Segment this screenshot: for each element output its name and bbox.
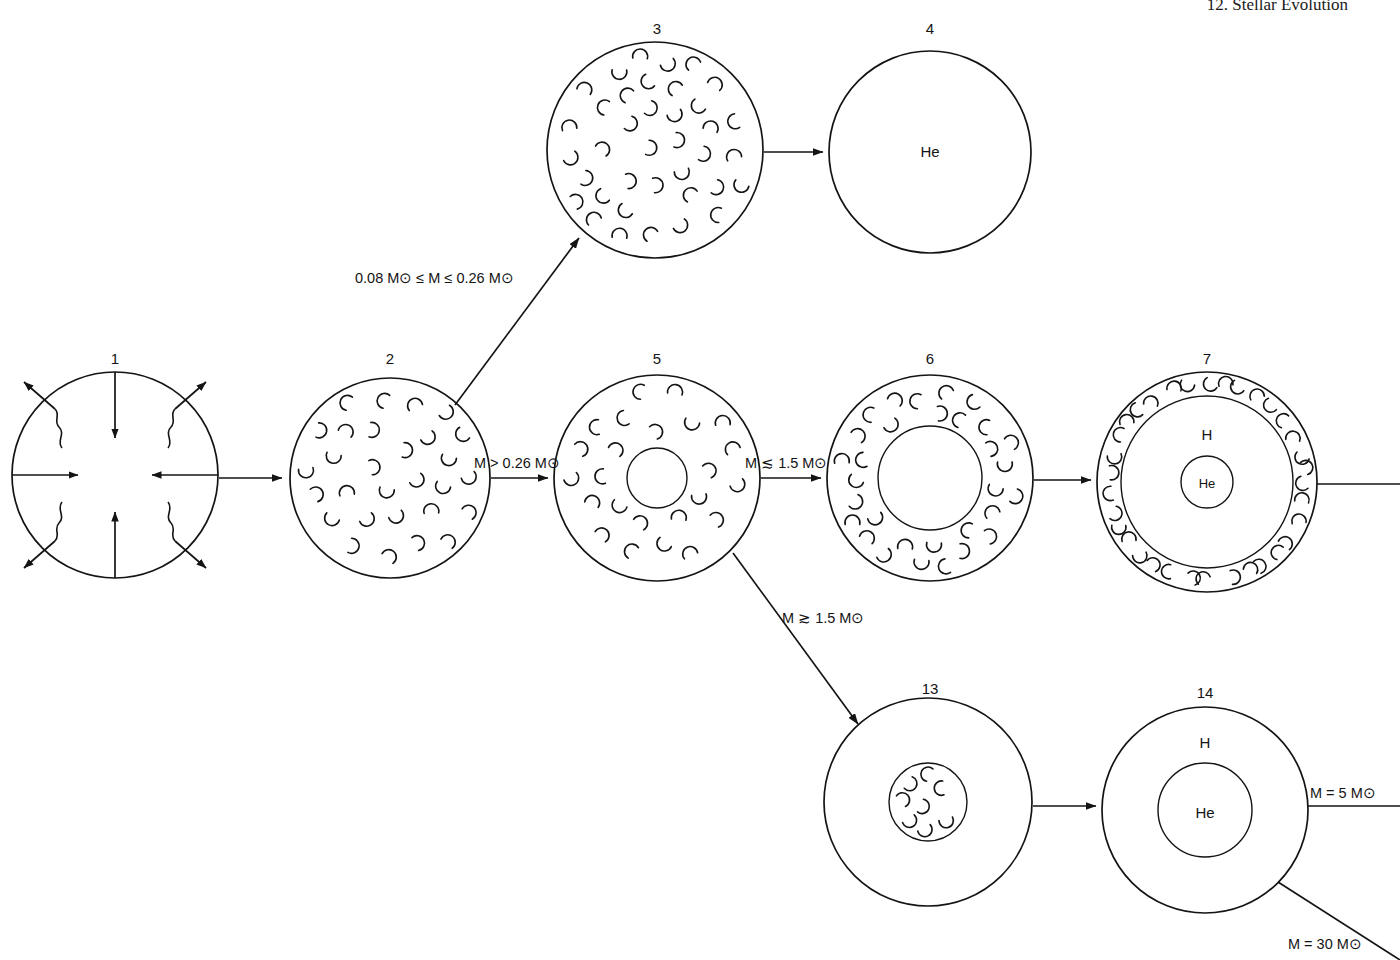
convection-mark [589,420,599,435]
stage-7-number: 7 [1203,350,1211,367]
convection-mark [918,825,932,837]
convection-mark [612,70,627,80]
convection-mark [708,77,723,90]
convection-mark [1286,431,1300,441]
convection-mark [1110,506,1122,520]
convection-mark [1253,559,1265,573]
convection-mark [988,484,1003,496]
convection-mark [979,420,990,435]
convection-mark [845,515,860,524]
stage-5-convection-marks [564,384,745,559]
stage-2-convection-marks [298,393,476,563]
convection-mark [624,544,638,558]
convection-mark [1296,476,1308,490]
convection-mark [703,463,716,477]
convection-mark [624,116,637,131]
convection-mark [856,452,867,467]
stage-6-number: 6 [926,350,934,367]
convection-mark [984,529,996,544]
stage-3-group: 3 [547,20,763,258]
convection-mark [986,441,998,456]
stage-7-helium-label: He [1199,476,1216,491]
convection-mark [904,777,917,791]
convection-mark [711,180,723,195]
stage-2-group: 2 [290,350,490,578]
convection-mark [585,495,600,507]
convection-mark [849,495,862,509]
convection-mark [1271,545,1283,559]
convection-mark [898,539,913,549]
stage-5-outer-circle [554,375,760,581]
convection-mark [877,549,891,562]
convection-mark [884,418,898,432]
convection-mark [1276,414,1288,428]
convection-mark [1180,380,1194,391]
convection-mark [961,523,972,538]
stage-6-group: 6 [827,350,1033,581]
convection-mark [834,454,849,464]
convection-mark [310,487,323,502]
convection-mark [860,531,875,544]
convection-mark [849,474,864,487]
convection-mark [439,405,453,419]
convection-mark [863,407,874,422]
convection-mark [379,487,394,498]
convection-mark [575,442,588,457]
convection-mark [626,174,637,189]
convection-mark [339,486,354,496]
convection-mark [1264,398,1277,412]
convection-mark [389,510,404,523]
convection-mark [888,393,903,406]
convection-mark [1295,452,1309,464]
stellar-evolution-diagram: 1 2 3 He 4 5 [0,0,1400,960]
convection-mark [633,384,644,399]
convection-mark [316,423,327,438]
convection-mark [382,550,396,564]
convection-mark [710,513,723,528]
convection-mark [939,817,953,828]
convection-mark [1130,403,1142,417]
stage-5-group: 5 [554,350,760,581]
stage-7-hydrogen-label: H [1202,426,1213,443]
wavy-radiation-upper-left [55,409,62,448]
convection-mark [436,481,451,493]
convection-mark [937,406,947,421]
convection-mark [1188,571,1200,585]
convection-mark [617,410,629,425]
convection-mark [421,431,435,445]
convection-mark [728,114,740,129]
convection-mark [960,544,970,559]
convection-mark [668,82,682,96]
convection-mark [1107,454,1121,464]
stage-4-helium-label: He [920,143,939,160]
stage-14-group: H He 14 [1102,684,1308,913]
convection-mark [412,536,425,551]
convection-mark [914,559,929,569]
convection-mark [903,815,917,828]
convection-mark [967,395,980,410]
convection-mark [1161,564,1170,578]
stage-5-number: 5 [653,350,661,367]
convection-mark [462,505,476,519]
stage-2-outer-circle [290,378,490,578]
stage-1-group: 1 [12,350,218,578]
convection-mark [938,559,950,574]
convection-mark [1292,514,1306,524]
convection-mark [934,781,944,795]
convection-mark [633,49,648,59]
convection-mark [424,504,439,514]
convection-mark [1250,389,1264,400]
convection-mark [340,395,352,410]
convection-mark [1243,562,1257,573]
convection-mark [441,454,456,465]
stage-13-convection-marks [896,767,953,837]
convection-mark [1230,570,1240,584]
convection-mark [1010,489,1023,504]
stage-3-convection-marks [562,49,749,241]
convection-mark [360,513,374,526]
convection-mark [641,74,654,88]
convection-mark [727,149,742,160]
convection-mark [650,424,663,439]
wavy-radiation-lower-left [55,502,62,541]
convection-mark [1144,396,1158,406]
